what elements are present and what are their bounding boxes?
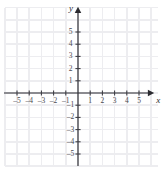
coordinate-plane-figure: –5–4–3–2–112345 –5–4–3–2–112345 x y (0, 0, 163, 170)
axis-lines (4, 11, 150, 166)
axis-arrowheads (75, 7, 154, 96)
axes (0, 0, 163, 170)
